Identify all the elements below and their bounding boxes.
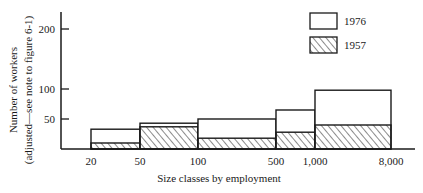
bar-1957 — [140, 127, 198, 149]
legend-swatch-hatched — [310, 37, 337, 53]
legend-item-1957: 1957 — [310, 37, 367, 53]
bar-1957 — [198, 138, 276, 149]
legend-swatch-open — [310, 13, 337, 29]
legend-item-1976: 1976 — [310, 13, 367, 29]
x-tick-label: 50 — [135, 155, 147, 167]
bar-group-50-100 — [140, 123, 198, 149]
legend: 1976 1957 — [310, 13, 367, 53]
y-tick-label: 50 — [44, 113, 56, 125]
bar-1957 — [315, 125, 391, 149]
bar-group-1,000-8,000 — [315, 90, 391, 149]
x-tick-label: 1,000 — [303, 155, 328, 167]
x-tick-label: 20 — [86, 155, 98, 167]
x-axis-title: Size classes by employment — [157, 172, 281, 184]
y-axis-note: (adjusted—see note to figure 6-1) — [22, 15, 35, 164]
x-ticks: 20501005001,0008,000 — [86, 155, 404, 167]
x-tick-label: 500 — [268, 155, 285, 167]
legend-label: 1976 — [344, 15, 367, 27]
bar-1957 — [91, 143, 140, 149]
bars-group — [91, 90, 391, 149]
y-ticks: 50100200 — [39, 23, 70, 125]
chart: Number of workers (adjusted—see note to … — [0, 0, 423, 193]
x-tick-label: 100 — [190, 155, 207, 167]
x-tick-label: 8,000 — [379, 155, 404, 167]
bar-group-20-50 — [91, 129, 140, 149]
bar-group-500-1,000 — [276, 110, 315, 149]
y-tick-label: 200 — [39, 23, 56, 35]
legend-label: 1957 — [344, 39, 367, 51]
y-tick-label: 100 — [39, 83, 56, 95]
bar-1957 — [276, 132, 315, 149]
y-axis-title: Number of workers — [7, 47, 19, 133]
bar-group-100-500 — [198, 119, 276, 149]
